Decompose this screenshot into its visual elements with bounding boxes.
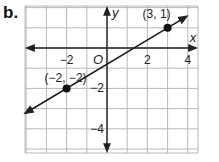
origin-label: O <box>93 52 103 67</box>
point-label: (3, 1) <box>143 7 171 21</box>
data-point <box>164 24 172 32</box>
x-axis-label: x <box>189 30 197 45</box>
y-tick-label: −2 <box>90 81 104 95</box>
x-tick-label: 2 <box>144 53 151 67</box>
coordinate-graph: xyO−224−2−4(−2, −2)(3, 1) <box>0 0 219 162</box>
graphed-line <box>25 16 187 113</box>
x-tick-label: 4 <box>184 53 191 67</box>
data-point <box>63 84 71 92</box>
y-tick-label: −4 <box>90 122 104 136</box>
point-label: (−2, −2) <box>45 71 87 85</box>
x-tick-label: −2 <box>60 53 74 67</box>
